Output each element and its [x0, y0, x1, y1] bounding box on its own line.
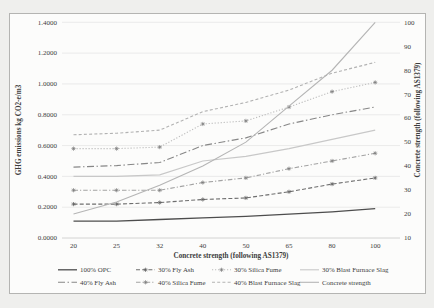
data-point-marker [115, 188, 119, 192]
data-point-marker [330, 182, 334, 186]
left-axis-tick: 0.2000 [38, 203, 58, 211]
legend-label: 100% OPC [80, 266, 112, 273]
x-axis-tick: 40 [199, 242, 207, 250]
data-point-marker [373, 151, 377, 155]
right-axis-title: Concrete strength (following AS1379) [414, 62, 422, 178]
data-point-marker [244, 176, 248, 180]
data-point-marker [158, 188, 162, 192]
left-axis-tick: 0.8000 [38, 111, 58, 119]
data-point-marker [219, 268, 223, 272]
legend-label: 30% Silica Fume [234, 266, 281, 273]
legend-label: 30% Blast Furnace Slag [322, 266, 389, 273]
data-point-marker [201, 197, 205, 201]
data-point-marker [158, 145, 162, 149]
x-axis-tick: 65 [286, 242, 294, 250]
left-axis-tick: 1.0000 [38, 80, 58, 88]
data-point-marker [330, 159, 334, 163]
legend-label: Concrete strength [322, 279, 371, 286]
right-axis-tick: 10 [404, 234, 412, 242]
data-point-marker [143, 268, 147, 272]
right-axis-tick: 90 [404, 43, 412, 51]
left-axis-tick: 0.4000 [38, 173, 58, 181]
right-axis-tick: 50 [404, 138, 412, 146]
right-axis-tick: 20 [404, 210, 412, 218]
left-axis-title: GHG emissions kg CO2-e/m3 [15, 84, 23, 175]
data-point-marker [158, 200, 162, 204]
data-point-marker [244, 196, 248, 200]
left-axis-tick: 0.0000 [38, 234, 58, 242]
x-axis-tick: 100 [370, 242, 381, 250]
data-point-marker [373, 176, 377, 180]
data-point-marker [143, 280, 147, 284]
data-point-marker [201, 122, 205, 126]
legend-label: 40% Blast Furnace Slag [234, 279, 301, 286]
legend-label: 40% Fly Ash [80, 279, 117, 286]
right-axis-tick: 40 [404, 162, 412, 170]
x-axis-tick: 80 [329, 242, 337, 250]
right-axis-tick: 30 [404, 186, 412, 194]
x-axis-tick: 50 [242, 242, 250, 250]
data-point-marker [71, 202, 75, 206]
x-axis-title: Concrete strength (following AS1379) [174, 252, 290, 260]
data-point-marker [287, 190, 291, 194]
left-axis-tick: 1.4000 [38, 19, 58, 27]
x-axis-tick: 20 [70, 242, 78, 250]
data-point-marker [115, 147, 119, 151]
data-point-marker [71, 147, 75, 151]
x-axis-tick: 25 [113, 242, 121, 250]
right-axis-tick: 70 [404, 91, 412, 99]
data-point-marker [244, 119, 248, 123]
right-axis-tick: 80 [404, 67, 412, 75]
left-axis-tick: 1.2000 [38, 49, 58, 57]
ghg-emissions-figure: 0.00000.20000.40000.60000.80001.00001.20… [0, 0, 434, 308]
data-point-marker [330, 90, 334, 94]
chart-canvas: 0.00000.20000.40000.60000.80001.00001.20… [0, 0, 434, 308]
data-point-marker [71, 188, 75, 192]
x-axis-tick: 32 [156, 242, 164, 250]
data-point-marker [373, 80, 377, 84]
data-point-marker [287, 167, 291, 171]
legend-label: 40% Silica Fume [158, 279, 205, 286]
legend-label: 30% Fly Ash [158, 266, 195, 273]
right-axis-tick: 100 [404, 19, 415, 27]
left-axis-tick: 0.6000 [38, 142, 58, 150]
right-axis-tick: 60 [404, 114, 412, 122]
data-point-marker [201, 180, 205, 184]
